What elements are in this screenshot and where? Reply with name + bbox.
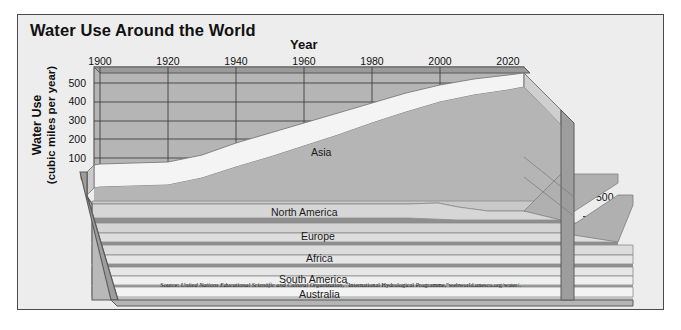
band-label-asia: Asia [311, 146, 332, 158]
source-italic: United Nations Educational Scientific an… [181, 281, 344, 288]
band-label-africa: Africa [306, 252, 333, 264]
band-label-north-america: North America [271, 206, 338, 218]
plot-top-cap [94, 67, 530, 73]
band-europe-surface [92, 223, 618, 233]
band-africa-surface [92, 245, 633, 255]
band-africa-shadow [92, 264, 633, 267]
source-note: Source: United Nations Educational Scien… [18, 281, 663, 288]
band-asia-left-cap [87, 165, 94, 195]
band-australia [92, 287, 633, 300]
source-prefix: Source: [160, 281, 180, 288]
band-label-europe: Europe [301, 230, 335, 242]
band-label-australia: Australia [299, 288, 340, 300]
source-rest: “International Hydrological Programme,”w… [344, 281, 521, 288]
floor-strip [111, 300, 633, 306]
band-australia-surface [92, 287, 633, 297]
band-africa-face [92, 255, 633, 264]
chart-panel: Water Use Around the World Year Water Us… [17, 14, 664, 310]
band-africa [92, 245, 633, 267]
axis-right-wall [561, 110, 574, 300]
band-europe-face [92, 233, 618, 242]
band-south-america-surface [92, 267, 633, 276]
chart-plot-area: Asia North America Europe Africa South A… [18, 15, 665, 311]
chart-image: Water Use Around the World Year Water Us… [0, 0, 681, 330]
band-europe-shadow [92, 242, 618, 245]
